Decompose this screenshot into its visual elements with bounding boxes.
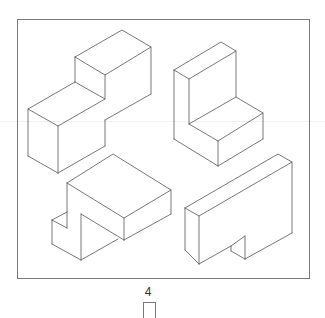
stepped-block-shape: [28, 30, 151, 173]
notched-overhang-shape: [52, 154, 171, 260]
l-bracket-shape: [174, 42, 263, 166]
figure-number-label: 4: [140, 285, 156, 299]
slotted-slab-shape: [185, 154, 292, 264]
answer-box[interactable]: [143, 302, 156, 318]
